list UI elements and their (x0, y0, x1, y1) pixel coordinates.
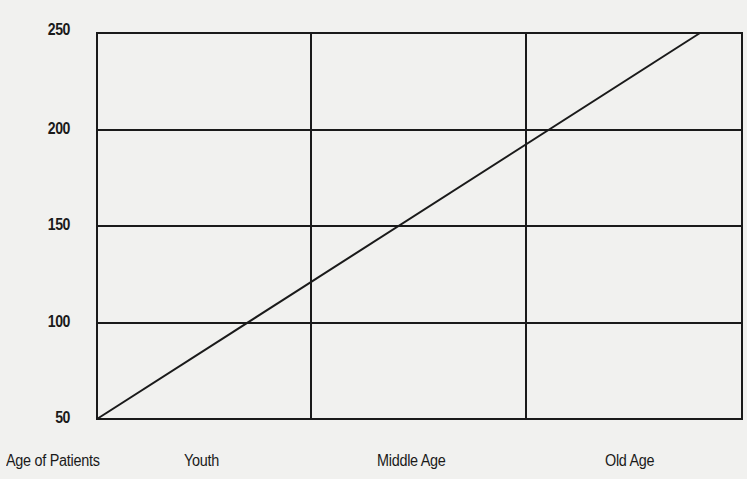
y-tick-250: 250 (8, 21, 70, 39)
x-axis-title: Age of Patients (6, 452, 100, 470)
y-tick-100: 100 (8, 313, 70, 331)
x-category-middle-age: Middle Age (377, 452, 446, 470)
chart-plot-area (0, 0, 747, 479)
y-tick-150: 150 (8, 216, 70, 234)
y-tick-200: 200 (8, 120, 70, 138)
x-category-old-age: Old Age (605, 452, 654, 470)
grid-lines (97, 33, 742, 419)
x-category-youth: Youth (184, 452, 219, 470)
y-tick-50: 50 (8, 409, 70, 427)
